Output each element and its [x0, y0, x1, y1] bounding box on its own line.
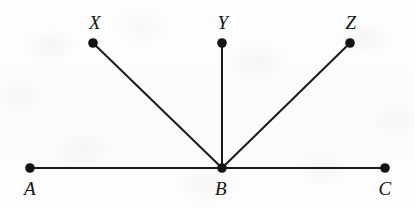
vertex-dot-a [25, 163, 35, 173]
vertex-label-x: X [89, 13, 101, 32]
vertex-label-c: C [379, 179, 392, 198]
vertex-label-a: A [24, 179, 36, 198]
vertex-label-b: B [215, 179, 227, 198]
geometry-figure: X Y Z A B C [0, 0, 414, 209]
ray-b-x [93, 43, 222, 168]
vertex-label-z: Z [346, 13, 357, 32]
vertex-dot-y [217, 38, 227, 48]
segments-group [30, 43, 385, 168]
ray-b-z [222, 43, 350, 168]
vertex-dot-x [88, 38, 98, 48]
vertex-dot-z [345, 38, 355, 48]
vertex-dot-b [217, 163, 227, 173]
vertex-dot-c [380, 163, 390, 173]
vertex-label-y: Y [218, 13, 229, 32]
